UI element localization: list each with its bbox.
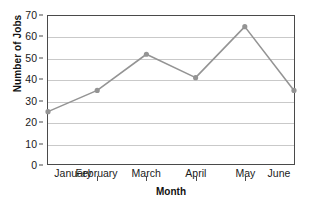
chart-title <box>0 0 311 1</box>
y-tick-label: 40 <box>25 73 37 85</box>
y-tick-mark <box>39 79 43 80</box>
data-markers <box>45 24 296 114</box>
x-tick-mark <box>245 176 246 181</box>
data-point <box>144 52 149 57</box>
x-axis-title: Month <box>47 186 295 197</box>
y-tick-label: 20 <box>25 116 37 128</box>
data-point <box>242 24 247 29</box>
y-tick-mark <box>39 143 43 144</box>
line-chart-figure: Number of Jobs 010203040506070 JanuaryFe… <box>0 0 311 216</box>
data-point <box>95 88 100 93</box>
y-tick-mark <box>39 165 43 166</box>
x-tick-mark <box>97 176 98 181</box>
y-axis-labels: 010203040506070 <box>0 15 43 165</box>
data-point <box>193 75 198 80</box>
y-tick-label: 30 <box>25 95 37 107</box>
y-tick-mark <box>39 100 43 101</box>
y-tick-label: 0 <box>31 159 37 171</box>
x-tick-label: June <box>268 167 291 179</box>
y-tick-label: 70 <box>25 9 37 21</box>
y-tick-mark <box>39 15 43 16</box>
data-line <box>48 27 294 112</box>
data-point <box>45 109 50 114</box>
data-series-layer <box>48 16 294 165</box>
x-axis-labels: JanuaryFebruaryMarchAprilMayJune <box>47 167 295 181</box>
data-point <box>291 88 296 93</box>
y-tick-mark <box>39 36 43 37</box>
y-tick-mark <box>39 122 43 123</box>
x-tick-mark <box>196 176 197 181</box>
y-tick-label: 60 <box>25 30 37 42</box>
plot-area <box>47 15 295 165</box>
y-tick-mark <box>39 57 43 58</box>
y-tick-label: 50 <box>25 52 37 64</box>
x-tick-mark <box>146 176 147 181</box>
y-tick-label: 10 <box>25 138 37 150</box>
